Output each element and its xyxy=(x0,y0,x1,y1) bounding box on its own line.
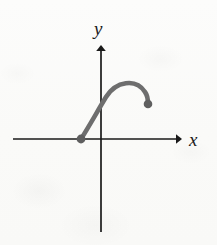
coordinate-plot xyxy=(0,0,217,245)
x-axis-arrowhead-icon xyxy=(176,134,182,144)
y-axis-label: y xyxy=(94,19,102,38)
curve-right-endpoint-dot xyxy=(144,100,153,109)
y-axis-arrowhead-icon xyxy=(96,45,106,51)
x-axis-label: x xyxy=(189,130,197,149)
curve-left-endpoint-dot xyxy=(77,135,86,144)
graph-figure: x y xyxy=(0,0,217,245)
function-curve xyxy=(81,83,148,139)
x-axis xyxy=(13,134,182,144)
